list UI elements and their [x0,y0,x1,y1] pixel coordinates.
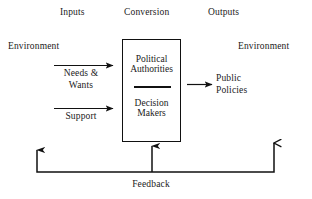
conversion-box-top-group: Political Authorities [123,54,180,74]
conversion-box-political-line1: Political [123,54,180,64]
output-label-public-line1: Public [216,73,268,84]
feedback-label: Feedback [122,179,180,190]
conversion-box-decision-line2: Makers [123,108,180,118]
conversion-box-bottom-group: Decision Makers [123,98,180,118]
output-label-public-line2: Policies [216,85,268,96]
header-inputs: Inputs [60,7,85,18]
systems-model-diagram: Inputs Conversion Outputs Environment En… [0,0,312,199]
header-conversion: Conversion [124,7,169,18]
environment-label-left: Environment [8,41,59,52]
input-label-support: Support [52,111,110,122]
conversion-box-decision-line1: Decision [123,98,180,108]
conversion-box-political-line2: Authorities [123,64,180,74]
environment-label-right: Environment [238,41,289,52]
input-label-needs-line2: Wants [52,80,110,91]
input-label-needs-line1: Needs & [52,68,110,79]
header-outputs: Outputs [208,7,239,18]
conversion-box: Political Authorities Decision Makers [122,39,181,142]
feedback-loop-path [37,143,274,172]
conversion-box-divider [134,86,171,88]
